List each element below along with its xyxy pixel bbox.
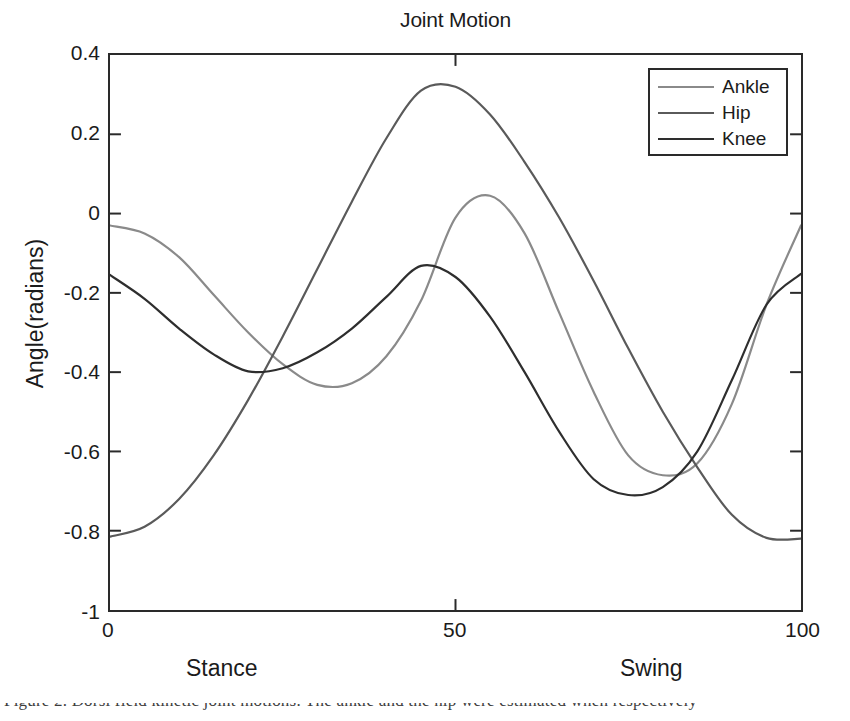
y-tick-5: -0.6 — [4, 441, 100, 462]
series-line-ankle — [110, 195, 801, 475]
caption-text-fragment: Figure 2. Dorsi field kinetic joint moti… — [0, 703, 850, 721]
y-axis-label: Angle(radians) — [22, 184, 49, 444]
legend-swatch-knee — [658, 138, 714, 140]
y-tick-7: -1 — [4, 601, 100, 622]
y-tick-6: -0.8 — [4, 521, 100, 542]
y-axis-ticks — [110, 134, 801, 530]
caption-text: Figure 2. Dorsi field kinetic joint moti… — [0, 703, 850, 711]
x-tick-0: 0 — [102, 618, 114, 642]
legend-label-hip: Hip — [722, 101, 751, 125]
legend-label-knee: Knee — [722, 127, 766, 151]
legend-item-ankle: Ankle — [650, 74, 786, 100]
x-tick-1: 50 — [443, 618, 466, 642]
legend-swatch-ankle — [658, 86, 714, 88]
y-axis-tick-labels: 0.4 0.2 0 -0.2 -0.4 -0.6 -0.8 -1 — [0, 53, 100, 612]
y-tick-2: 0 — [4, 202, 100, 223]
y-tick-4: -0.4 — [4, 361, 100, 382]
legend: Ankle Hip Knee — [648, 68, 788, 156]
page-title: Joint Motion — [108, 8, 803, 32]
y-tick-1: 0.2 — [4, 122, 100, 143]
legend-swatch-hip — [658, 112, 714, 114]
legend-item-knee: Knee — [650, 126, 786, 152]
legend-item-hip: Hip — [650, 100, 786, 126]
y-tick-3: -0.2 — [4, 282, 100, 303]
x-axis-tick-labels: 0 50 100 — [108, 618, 803, 648]
y-tick-0: 0.4 — [4, 42, 100, 63]
x-tick-2: 100 — [785, 618, 820, 642]
legend-label-ankle: Ankle — [722, 75, 770, 99]
phase-label-stance: Stance — [186, 655, 258, 682]
joint-motion-figure: Joint Motion 0 — [0, 0, 850, 721]
phase-label-swing: Swing — [620, 655, 683, 682]
series-line-knee — [110, 265, 801, 495]
